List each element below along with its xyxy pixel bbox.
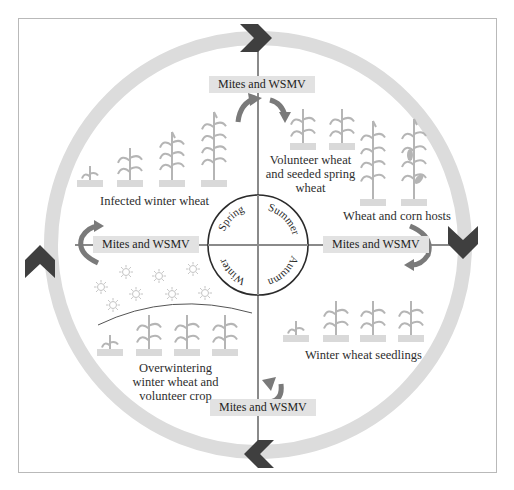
snowflake-icon (186, 262, 200, 276)
snowflake-icon (152, 269, 166, 283)
snow-cover-line (98, 304, 252, 325)
snowflake-icon (94, 280, 108, 294)
soil-pad (398, 335, 424, 342)
arrowhead-summer-icon (279, 112, 291, 123)
stage-label-hosts: Wheat and corn hosts (343, 209, 451, 224)
transfer-label-bottom: Mites and WSMV (210, 399, 316, 416)
soil-pad (201, 180, 227, 187)
soil-pad (360, 335, 386, 342)
transfer-label-left: Mites and WSMV (93, 236, 199, 253)
diagram-art: Spring Summer Autumn Winter (0, 0, 514, 490)
soil-pad (174, 349, 200, 356)
stage-label-autumn: Winter wheat seedlings (305, 348, 422, 363)
transfer-label-right: Mites and WSMV (323, 236, 429, 253)
plant-autumn-2 (323, 301, 349, 342)
stage-label-winter-line1: Overwintering (128, 361, 223, 376)
snowflake-icon (119, 265, 133, 279)
soil-pad (323, 335, 349, 342)
plant-spring-1 (77, 166, 103, 187)
wsmv-cycle-diagram: Spring Summer Autumn Winter (0, 0, 514, 490)
arrowhead-left-icon (94, 220, 104, 232)
plant-winter-2 (136, 315, 162, 356)
stage-label-winter-line2: winter wheat and (128, 375, 223, 390)
plant-autumn-4 (398, 301, 424, 342)
stage-label-summer-line1: Volunteer wheat (263, 153, 358, 168)
soil-pad (117, 180, 143, 187)
plant-spring-2 (117, 148, 143, 187)
soil-pad (290, 143, 316, 150)
soil-pad (360, 199, 386, 206)
plant-winter-1 (97, 335, 123, 356)
snowflake-icon (129, 287, 143, 301)
stage-label-winter-line3: volunteer crop (128, 389, 223, 404)
soil-pad (401, 199, 427, 206)
plant-host-corn (401, 119, 427, 206)
plant-winter-3 (174, 315, 200, 356)
transfer-label-top: Mites and WSMV (209, 76, 315, 93)
plant-winter-4 (212, 315, 238, 356)
arrowhead-right-icon (404, 259, 414, 271)
soil-pad (212, 349, 238, 356)
soil-pad (136, 349, 162, 356)
plant-summer-2 (329, 109, 355, 150)
arrowhead-bottom-icon (262, 377, 276, 391)
snowflake-icon (165, 287, 179, 301)
snowflake-icon (198, 286, 212, 300)
soil-pad (329, 143, 355, 150)
plant-spring-4 (201, 112, 227, 187)
stage-label-summer-line2: and seeded spring (263, 167, 358, 182)
snowflake-icon (106, 298, 120, 312)
stage-label-summer-line3: wheat (263, 181, 358, 196)
arrowhead-top-icon (248, 93, 262, 106)
plant-autumn-1 (283, 321, 309, 342)
plant-spring-3 (159, 132, 185, 187)
soil-pad (159, 180, 185, 187)
stage-label-spring: Infected winter wheat (100, 194, 209, 209)
plant-host-wheat (360, 121, 386, 206)
soil-pad (77, 180, 103, 187)
soil-pad (283, 335, 309, 342)
soil-pad (97, 349, 123, 356)
plant-autumn-3 (360, 301, 386, 342)
plant-summer-1 (290, 109, 316, 150)
